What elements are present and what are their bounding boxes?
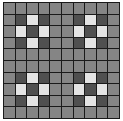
board-cell-dark[interactable] — [85, 26, 96, 37]
board-cell-base[interactable] — [50, 107, 61, 118]
board-cell-base[interactable] — [4, 73, 15, 84]
board-cell-light[interactable] — [39, 84, 50, 95]
board-cell-base[interactable] — [50, 3, 61, 14]
board-cell-base[interactable] — [108, 96, 119, 107]
board-cell-base[interactable] — [85, 3, 96, 14]
board-cell-light[interactable] — [97, 26, 108, 37]
board-cell-base[interactable] — [27, 49, 38, 60]
board-cell-base[interactable] — [4, 61, 15, 72]
board-cell-dark[interactable] — [39, 15, 50, 26]
board-cell-base[interactable] — [108, 26, 119, 37]
board-cell-base[interactable] — [50, 38, 61, 49]
board-cell-base[interactable] — [50, 61, 61, 72]
board-cell-light[interactable] — [85, 38, 96, 49]
board-cell-base[interactable] — [62, 73, 73, 84]
board-cell-base[interactable] — [4, 84, 15, 95]
board-cell-dark[interactable] — [74, 38, 85, 49]
board-cell-light[interactable] — [16, 26, 27, 37]
board-cell-dark[interactable] — [39, 96, 50, 107]
board-cell-base[interactable] — [108, 38, 119, 49]
board-cell-base[interactable] — [97, 49, 108, 60]
board-cell-light[interactable] — [16, 84, 27, 95]
board-cell-dark[interactable] — [16, 38, 27, 49]
board-cell-base[interactable] — [50, 15, 61, 26]
board-cell-light[interactable] — [27, 96, 38, 107]
board-cell-base[interactable] — [50, 84, 61, 95]
board-cell-light[interactable] — [27, 15, 38, 26]
board-cell-base[interactable] — [4, 15, 15, 26]
board-cell-light[interactable] — [74, 84, 85, 95]
board-cell-base[interactable] — [50, 26, 61, 37]
board-cell-base[interactable] — [62, 3, 73, 14]
board-cell-base[interactable] — [108, 15, 119, 26]
board-cell-base[interactable] — [74, 49, 85, 60]
board-cell-dark[interactable] — [74, 15, 85, 26]
board-cell-base[interactable] — [16, 3, 27, 14]
board-cell-light[interactable] — [27, 73, 38, 84]
board-cell-dark[interactable] — [39, 73, 50, 84]
board-cell-dark[interactable] — [85, 84, 96, 95]
board-cell-base[interactable] — [62, 84, 73, 95]
board-cell-light[interactable] — [85, 73, 96, 84]
board-cell-light[interactable] — [27, 38, 38, 49]
board-cell-light[interactable] — [97, 84, 108, 95]
board-cell-base[interactable] — [62, 61, 73, 72]
board-cell-base[interactable] — [50, 49, 61, 60]
board-cell-light[interactable] — [85, 15, 96, 26]
board-cell-base[interactable] — [62, 96, 73, 107]
board-cell-dark[interactable] — [27, 84, 38, 95]
board-cell-base[interactable] — [74, 3, 85, 14]
board-cell-dark[interactable] — [16, 73, 27, 84]
board-cell-base[interactable] — [97, 3, 108, 14]
board-cell-light[interactable] — [39, 26, 50, 37]
board-cell-base[interactable] — [4, 96, 15, 107]
board-cell-base[interactable] — [16, 49, 27, 60]
board-cell-base[interactable] — [97, 61, 108, 72]
board-cell-base[interactable] — [85, 107, 96, 118]
board-cell-base[interactable] — [108, 84, 119, 95]
board-cell-base[interactable] — [4, 107, 15, 118]
board-cell-base[interactable] — [27, 61, 38, 72]
board-cell-light[interactable] — [85, 96, 96, 107]
board-cell-base[interactable] — [108, 73, 119, 84]
board-cell-dark[interactable] — [97, 38, 108, 49]
board-cell-base[interactable] — [108, 107, 119, 118]
board-cell-base[interactable] — [62, 15, 73, 26]
board-cell-dark[interactable] — [39, 38, 50, 49]
board-cell-dark[interactable] — [74, 73, 85, 84]
board-cell-base[interactable] — [108, 61, 119, 72]
board-cell-dark[interactable] — [74, 96, 85, 107]
board-cell-base[interactable] — [85, 49, 96, 60]
board-cell-base[interactable] — [108, 49, 119, 60]
board-cell-base[interactable] — [27, 107, 38, 118]
board-cell-base[interactable] — [50, 96, 61, 107]
board-cell-base[interactable] — [62, 49, 73, 60]
board-cell-base[interactable] — [74, 61, 85, 72]
board-cell-dark[interactable] — [16, 15, 27, 26]
board-cell-dark[interactable] — [97, 73, 108, 84]
board-cell-base[interactable] — [39, 3, 50, 14]
board-cell-base[interactable] — [62, 26, 73, 37]
board-cell-base[interactable] — [108, 3, 119, 14]
board-cell-base[interactable] — [74, 107, 85, 118]
board-cell-dark[interactable] — [27, 26, 38, 37]
board-cell-dark[interactable] — [16, 96, 27, 107]
board-cell-base[interactable] — [39, 49, 50, 60]
board-cell-base[interactable] — [62, 107, 73, 118]
board-cell-base[interactable] — [4, 49, 15, 60]
board-cell-dark[interactable] — [97, 96, 108, 107]
board-cell-base[interactable] — [62, 38, 73, 49]
board-cell-base[interactable] — [50, 73, 61, 84]
board-cell-base[interactable] — [39, 107, 50, 118]
board-cell-base[interactable] — [4, 3, 15, 14]
board-cell-base[interactable] — [97, 107, 108, 118]
board-cell-base[interactable] — [4, 38, 15, 49]
board-cell-light[interactable] — [74, 26, 85, 37]
board-cell-dark[interactable] — [97, 15, 108, 26]
board-cell-base[interactable] — [39, 61, 50, 72]
board-cell-base[interactable] — [85, 61, 96, 72]
board-cell-base[interactable] — [16, 107, 27, 118]
board-cell-base[interactable] — [16, 61, 27, 72]
board-cell-base[interactable] — [27, 3, 38, 14]
board-cell-base[interactable] — [4, 26, 15, 37]
